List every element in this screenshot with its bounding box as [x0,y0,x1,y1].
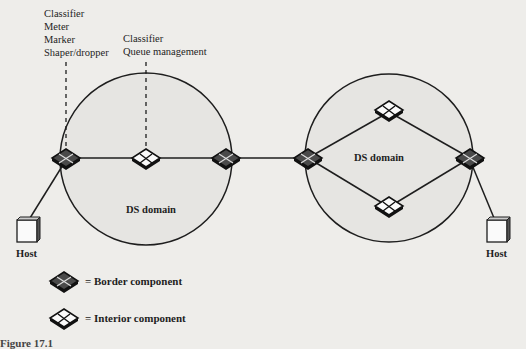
legend-border-label: = Border component [85,275,182,287]
ds-domain-right-label: DS domain [354,151,404,164]
border-function-marker: Marker [44,33,109,46]
figure-caption: Figure 17.1 [0,337,53,349]
host-left-icon [17,217,40,242]
interior-function-classifier: Classifier [123,32,207,45]
host-left-label: Host [16,247,37,260]
legend-interior-icon [50,309,78,330]
ds-domain-left-label: DS domain [126,203,176,216]
border-functions-annotation: Classifier Meter Marker Shaper/dropper [44,7,109,59]
host-right-icon [487,217,510,242]
host-right-label: Host [486,247,507,260]
border-function-meter: Meter [44,20,109,33]
interior-function-queue: Queue management [123,45,207,58]
border-function-classifier: Classifier [44,7,109,20]
legend-interior-label: = Interior component [85,312,186,324]
border-function-shaper: Shaper/dropper [44,46,109,59]
interior-functions-annotation: Classifier Queue management [123,32,207,58]
legend-border-icon [50,272,78,293]
